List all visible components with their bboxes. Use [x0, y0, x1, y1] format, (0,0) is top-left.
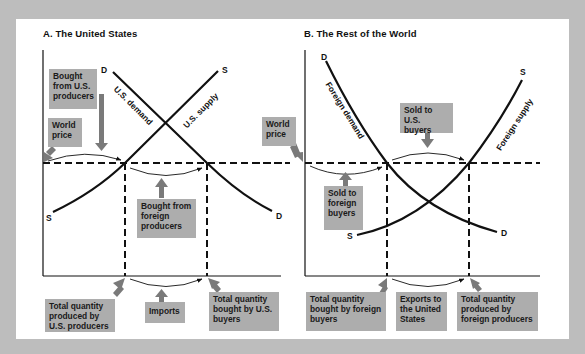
- panel-a-supply-top-label: S: [222, 65, 228, 75]
- total-produced-by-foreign-box: Total quantity produced by foreign produ…: [457, 292, 538, 331]
- panel-b-supply-bottom-label: S: [347, 231, 353, 241]
- panel-b-title: B. The Rest of the World: [304, 28, 417, 39]
- panel-a-shortage-arrow: [130, 168, 202, 176]
- panel-b-demand-top-label: D: [321, 52, 327, 62]
- us-demand-curve: [113, 72, 272, 211]
- panel-a-demand-top-label: D: [101, 65, 107, 75]
- bought-from-us-producers-box: Bought from U.S. producers: [49, 69, 97, 109]
- panel-b-supply-top-label: S: [520, 67, 526, 77]
- bought-from-foreign-producers-box: Bought from foreign producers: [137, 199, 196, 238]
- panel-b-demand-bottom-label: D: [501, 228, 507, 238]
- panel-a-supply-bottom-label: S: [46, 213, 52, 223]
- panel-b-surplus-arrow: [392, 153, 464, 160]
- imports-box: Imports: [145, 302, 185, 323]
- panel-a-world-price-arrow: [48, 154, 121, 161]
- total-bought-by-us-box: Total quantity bought by U.S. buyers: [209, 292, 279, 331]
- sold-to-foreign-buyers-box: Sold to foreign buyers: [324, 186, 363, 230]
- total-bought-by-foreign-box: Total quantity bought by foreign buyers: [306, 292, 386, 331]
- panel-a-world-price-box: World price: [48, 118, 82, 147]
- panel-a-imports-arrow: [130, 279, 202, 287]
- sold-to-us-buyers-box: Sold to U.S. buyers: [400, 103, 453, 133]
- panel-a-demand-bottom-label: D: [276, 211, 282, 221]
- panel-b-world-price-box: World price: [262, 117, 296, 146]
- exports-to-us-box: Exports to the United States: [396, 292, 447, 331]
- panel-b-exports-arrow: [392, 279, 464, 287]
- total-produced-by-us-box: Total quantity produced by U.S. producer…: [45, 299, 115, 332]
- panel-a-title: A. The United States: [43, 28, 137, 39]
